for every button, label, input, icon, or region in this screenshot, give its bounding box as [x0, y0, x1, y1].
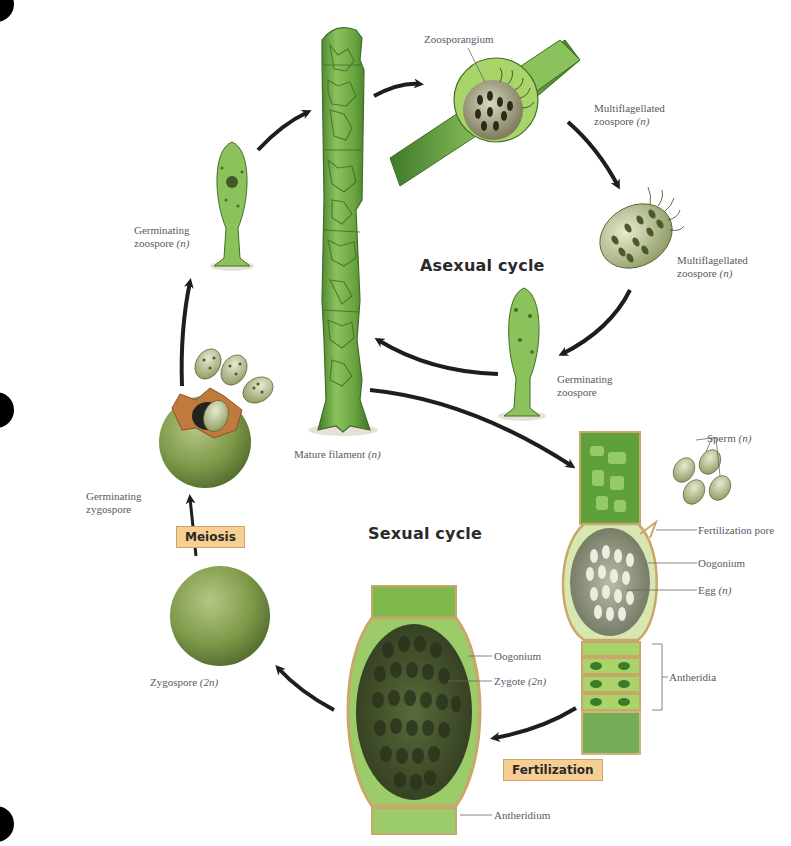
- label-germinating-zygospore: Germinating zygospore: [86, 490, 142, 516]
- label-oogonium-right: Oogonium: [698, 557, 745, 570]
- germinating-zoospore-left: [210, 142, 254, 271]
- germinating-zoospore-right: [498, 288, 546, 421]
- label-text: Mature filament: [294, 448, 365, 460]
- mature-filament: [308, 28, 378, 436]
- label-antheridia: Antheridia: [669, 671, 716, 684]
- ploidy: (n): [738, 432, 751, 444]
- label-text: Egg: [698, 584, 716, 596]
- label-germinating-zoospore-right: Germinating zoospore: [557, 373, 613, 399]
- ploidy: (n): [719, 267, 732, 279]
- illustration: [0, 0, 791, 846]
- ploidy: (n): [718, 584, 731, 596]
- label-line: zoospore: [594, 115, 634, 127]
- label-text: Zygote: [494, 675, 525, 687]
- label-fertilization-pore: Fertilization pore: [698, 524, 774, 537]
- label-egg: Egg (n): [698, 584, 731, 597]
- label-text: Zygospore: [150, 676, 197, 688]
- ploidy: (n): [176, 237, 189, 249]
- label-line: zoospore: [134, 237, 174, 249]
- ploidy: (2n): [528, 675, 546, 687]
- label-sperm: Sperm (n): [707, 432, 751, 445]
- ploidy: (n): [636, 115, 649, 127]
- label-zygote: Zygote (2n): [494, 675, 546, 688]
- zygote-filament: [348, 586, 480, 834]
- label-zoosporangium: Zoosporangium: [424, 33, 494, 46]
- label-line: Germinating: [134, 224, 190, 237]
- ploidy: (2n): [200, 676, 218, 688]
- label-line: Multiflagellated: [677, 254, 748, 267]
- label-line: zygospore: [86, 503, 142, 516]
- meiosis-tag: Meiosis: [176, 526, 245, 548]
- asexual-cycle-title: Asexual cycle: [420, 256, 545, 275]
- label-multiflagellated-zoospore-2: Multiflagellated zoospore (n): [677, 254, 748, 280]
- label-oogonium-bottom: Oogonium: [494, 650, 541, 663]
- germinating-zygospore: [159, 344, 278, 488]
- label-antheridium: Antheridium: [494, 809, 550, 822]
- label-zygospore: Zygospore (2n): [150, 676, 218, 689]
- label-line: zoospore: [677, 267, 717, 279]
- fertilization-tag: Fertilization: [503, 759, 603, 781]
- label-line: zoospore: [557, 386, 613, 399]
- label-line: Multiflagellated: [594, 102, 665, 115]
- label-text: Sperm: [707, 432, 736, 444]
- ploidy: (n): [368, 448, 381, 460]
- label-line: Germinating: [557, 373, 613, 386]
- life-cycle-diagram: Zoosporangium Multiflagellated zoospore …: [0, 0, 791, 846]
- zygospore: [170, 566, 270, 666]
- free-zoospore: [588, 187, 684, 281]
- label-line: Germinating: [86, 490, 142, 503]
- zoosporangium-filament: [390, 40, 580, 186]
- label-mature-filament: Mature filament (n): [294, 448, 381, 461]
- label-multiflagellated-zoospore-1: Multiflagellated zoospore (n): [594, 102, 665, 128]
- sperm-cells: [669, 446, 735, 509]
- sexual-cycle-title: Sexual cycle: [368, 524, 482, 543]
- label-germinating-zoospore-left: Germinating zoospore (n): [134, 224, 190, 250]
- oogonium-filament: [563, 432, 657, 754]
